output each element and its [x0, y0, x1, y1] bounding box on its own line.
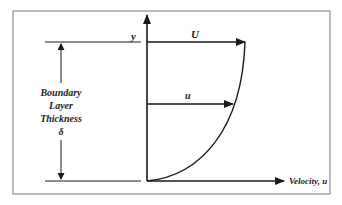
thickness-label-line3: Thickness: [40, 113, 82, 124]
thickness-label-line1: Boundary: [39, 87, 82, 98]
free-stream-label: U: [191, 28, 200, 40]
thickness-symbol: δ: [58, 126, 63, 137]
local-velocity-label: u: [185, 90, 191, 101]
boundary-layer-diagram: y U u Velocity, u Boundary Layer Thickne…: [0, 0, 342, 205]
thickness-label-line2: Layer: [48, 100, 73, 111]
velocity-axis-label: Velocity, u: [289, 176, 327, 186]
y-axis-label: y: [129, 30, 136, 42]
